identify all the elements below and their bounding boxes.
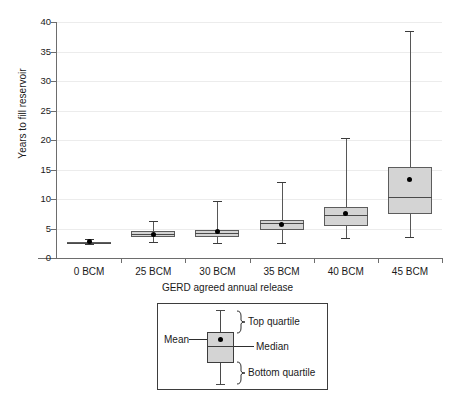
whisker-upper — [410, 31, 411, 167]
y-tick-label-text: 25 — [21, 106, 51, 116]
y-tick-mark — [51, 22, 56, 23]
y-tick-mark — [51, 199, 56, 200]
y-tick-label: 0 — [14, 253, 51, 263]
boxplot-45-bcm — [57, 22, 442, 258]
x-tick-mark — [442, 258, 443, 263]
y-tick-label: 25 — [14, 106, 51, 116]
x-tick-mark — [314, 258, 315, 263]
y-tick-label: 35 — [14, 47, 51, 57]
box-iqr — [388, 167, 432, 214]
legend-lower-whisker — [220, 363, 221, 385]
legend-mean-leader — [189, 339, 207, 340]
y-tick-label: 30 — [14, 76, 51, 86]
y-tick-label-text: 15 — [21, 165, 51, 175]
y-tick-mark — [51, 229, 56, 230]
y-tick-mark — [51, 81, 56, 82]
y-tick-label: 5 — [14, 224, 51, 234]
whisker-lower — [410, 214, 411, 238]
plot-area — [57, 22, 442, 258]
y-tick-label-text: 30 — [21, 76, 51, 86]
x-tick-mark — [185, 258, 186, 263]
y-tick-mark — [51, 170, 56, 171]
legend-lower-cap — [216, 384, 225, 385]
legend-upper-whisker — [220, 310, 221, 332]
y-tick-label: 40 — [14, 17, 51, 27]
x-tick-mark — [250, 258, 251, 263]
y-tick-label-text: 10 — [21, 194, 51, 204]
x-tick-mark — [121, 258, 122, 263]
y-tick-mark — [51, 52, 56, 53]
legend-mean-dot — [218, 337, 223, 342]
y-tick-mark — [51, 111, 56, 112]
legend-median-label: Median — [256, 341, 289, 352]
legend-top-quartile-brace — [236, 310, 246, 334]
legend-upper-cap — [216, 310, 225, 311]
whisker-cap-upper — [405, 31, 414, 32]
y-tick-label-text: 5 — [21, 224, 51, 234]
boxplot-figure: Years to fill reservoir 0510152025303540… — [0, 0, 455, 400]
y-tick-mark — [51, 140, 56, 141]
legend-bottom-quartile-label: Bottom quartile — [248, 367, 315, 378]
legend-median-line — [207, 346, 234, 347]
y-tick-label: 15 — [14, 165, 51, 175]
x-axis-label: GERD agreed annual release — [0, 282, 455, 293]
whisker-cap-lower — [405, 237, 414, 238]
legend-mean-label: Mean — [157, 334, 189, 345]
x-tick-mark — [378, 258, 379, 263]
legend-top-quartile-label: Top quartile — [248, 316, 300, 327]
y-tick-label: 10 — [14, 194, 51, 204]
x-axis-line — [38, 258, 442, 259]
y-tick-mark — [51, 258, 56, 259]
y-tick-label-text: 20 — [21, 135, 51, 145]
legend-bottom-quartile-brace — [236, 361, 246, 385]
x-tick-label: 45 BCM — [370, 266, 450, 277]
y-tick-label-text: 35 — [21, 47, 51, 57]
legend-panel: Mean Median Top quartile Bottom quartile — [157, 303, 328, 390]
median-line — [388, 197, 432, 198]
legend-median-leader — [234, 346, 254, 347]
y-tick-label: 20 — [14, 135, 51, 145]
y-tick-label-text: 40 — [21, 17, 51, 27]
y-tick-label-text: 0 — [21, 253, 51, 263]
